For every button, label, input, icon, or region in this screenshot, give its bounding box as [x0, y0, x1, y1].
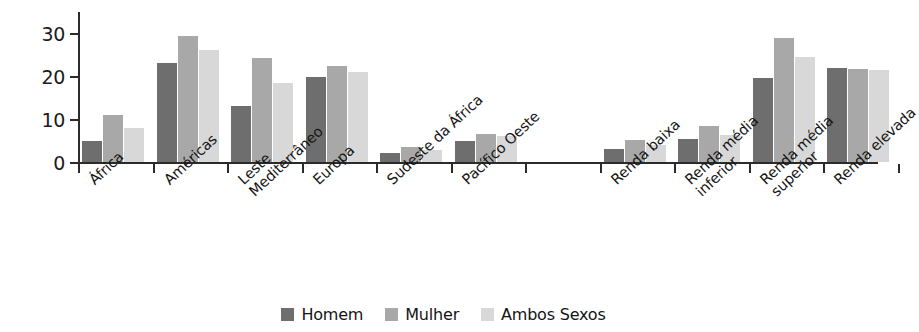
y-axis-line — [78, 12, 80, 164]
x-tick-8 — [674, 164, 676, 173]
x-tick-0 — [78, 164, 80, 173]
y-tick-0: 0 — [70, 162, 78, 164]
x-tick-5 — [451, 164, 453, 173]
bar — [231, 106, 251, 162]
bar — [124, 128, 144, 162]
legend-item[interactable]: Ambos Sexos — [481, 305, 606, 324]
x-tick-11 — [898, 164, 900, 173]
y-tick-label: 10 — [41, 109, 65, 131]
y-tick-20: 20 — [70, 76, 78, 78]
x-tick-10 — [823, 164, 825, 173]
y-tick-label: 20 — [41, 66, 65, 88]
y-tick-label: 30 — [41, 23, 65, 45]
x-tick-6 — [525, 164, 527, 173]
bar — [604, 149, 624, 162]
chart-legend: HomemMulherAmbos Sexos — [0, 305, 887, 324]
legend-label: Homem — [301, 305, 363, 324]
y-tick-10: 10 — [70, 119, 78, 121]
bar — [82, 141, 102, 162]
bar — [678, 139, 698, 162]
x-tick-2 — [227, 164, 229, 173]
legend-swatch-icon — [385, 308, 398, 321]
bar — [455, 141, 475, 162]
y-tick-label: 0 — [53, 152, 65, 174]
y-tick-30: 30 — [70, 33, 78, 35]
x-tick-4 — [376, 164, 378, 173]
x-tick-9 — [749, 164, 751, 173]
legend-label: Mulher — [405, 305, 459, 324]
x-tick-7 — [600, 164, 602, 173]
bar — [380, 153, 400, 162]
x-tick-1 — [153, 164, 155, 173]
legend-item[interactable]: Homem — [281, 305, 363, 324]
legend-swatch-icon — [481, 308, 494, 321]
x-tick-3 — [302, 164, 304, 173]
bar — [157, 63, 177, 162]
legend-swatch-icon — [281, 308, 294, 321]
legend-label: Ambos Sexos — [501, 305, 606, 324]
legend-item[interactable]: Mulher — [385, 305, 459, 324]
